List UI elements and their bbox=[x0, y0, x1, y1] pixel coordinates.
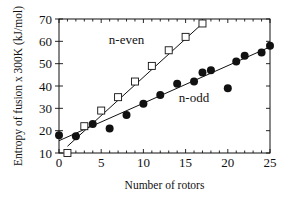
data-markers bbox=[55, 20, 274, 157]
y-tick-label: 10 bbox=[39, 146, 52, 161]
y-tick-label: 40 bbox=[39, 79, 52, 94]
annotation-n-odd: n-odd bbox=[179, 90, 210, 105]
circle-marker bbox=[190, 78, 198, 86]
circle-marker bbox=[232, 57, 240, 65]
y-tick-label: 60 bbox=[39, 34, 52, 49]
circle-marker bbox=[139, 100, 147, 108]
y-tick-label: 50 bbox=[39, 56, 52, 71]
x-tick-label: 25 bbox=[264, 155, 277, 170]
plot-frame bbox=[59, 19, 270, 153]
circle-marker bbox=[156, 91, 164, 99]
circle-marker bbox=[106, 124, 114, 132]
x-tick-label: 15 bbox=[179, 155, 192, 170]
circle-marker bbox=[258, 49, 266, 57]
x-tick-label: 10 bbox=[137, 155, 150, 170]
y-tick-label: 20 bbox=[39, 123, 52, 138]
y-tick-label: 70 bbox=[39, 12, 52, 27]
circle-marker bbox=[72, 132, 80, 140]
square-marker bbox=[98, 107, 105, 114]
square-marker bbox=[148, 62, 155, 69]
square-marker bbox=[199, 20, 206, 27]
chart: 051015202510203040506070 n-evenn-odd Num… bbox=[0, 0, 291, 197]
y-tick-label: 30 bbox=[39, 101, 52, 116]
y-axis-title: Entropy of fusion x 300K (kJ/mol) bbox=[12, 6, 25, 166]
x-tick-label: 0 bbox=[56, 155, 63, 170]
x-tick-label: 5 bbox=[98, 155, 105, 170]
circle-marker bbox=[266, 42, 274, 50]
plot-border bbox=[59, 19, 270, 153]
fit-lines bbox=[59, 23, 270, 146]
annotation-n-even: n-even bbox=[109, 32, 145, 47]
circle-marker bbox=[173, 80, 181, 88]
square-marker bbox=[165, 47, 172, 54]
circle-marker bbox=[241, 52, 249, 60]
square-marker bbox=[131, 78, 138, 85]
x-tick-label: 20 bbox=[221, 155, 234, 170]
square-marker bbox=[182, 33, 189, 40]
x-axis-title: Number of rotors bbox=[125, 179, 205, 191]
circle-marker bbox=[224, 84, 232, 92]
tick-labels: 051015202510203040506070 bbox=[39, 12, 277, 171]
circle-marker bbox=[55, 131, 63, 139]
square-marker bbox=[81, 123, 88, 130]
square-marker bbox=[115, 94, 122, 101]
axis-ticks bbox=[55, 19, 270, 153]
circle-marker bbox=[207, 66, 215, 74]
square-marker bbox=[64, 150, 71, 157]
circle-marker bbox=[89, 120, 97, 128]
circle-marker bbox=[198, 69, 206, 77]
circle-marker bbox=[123, 111, 131, 119]
